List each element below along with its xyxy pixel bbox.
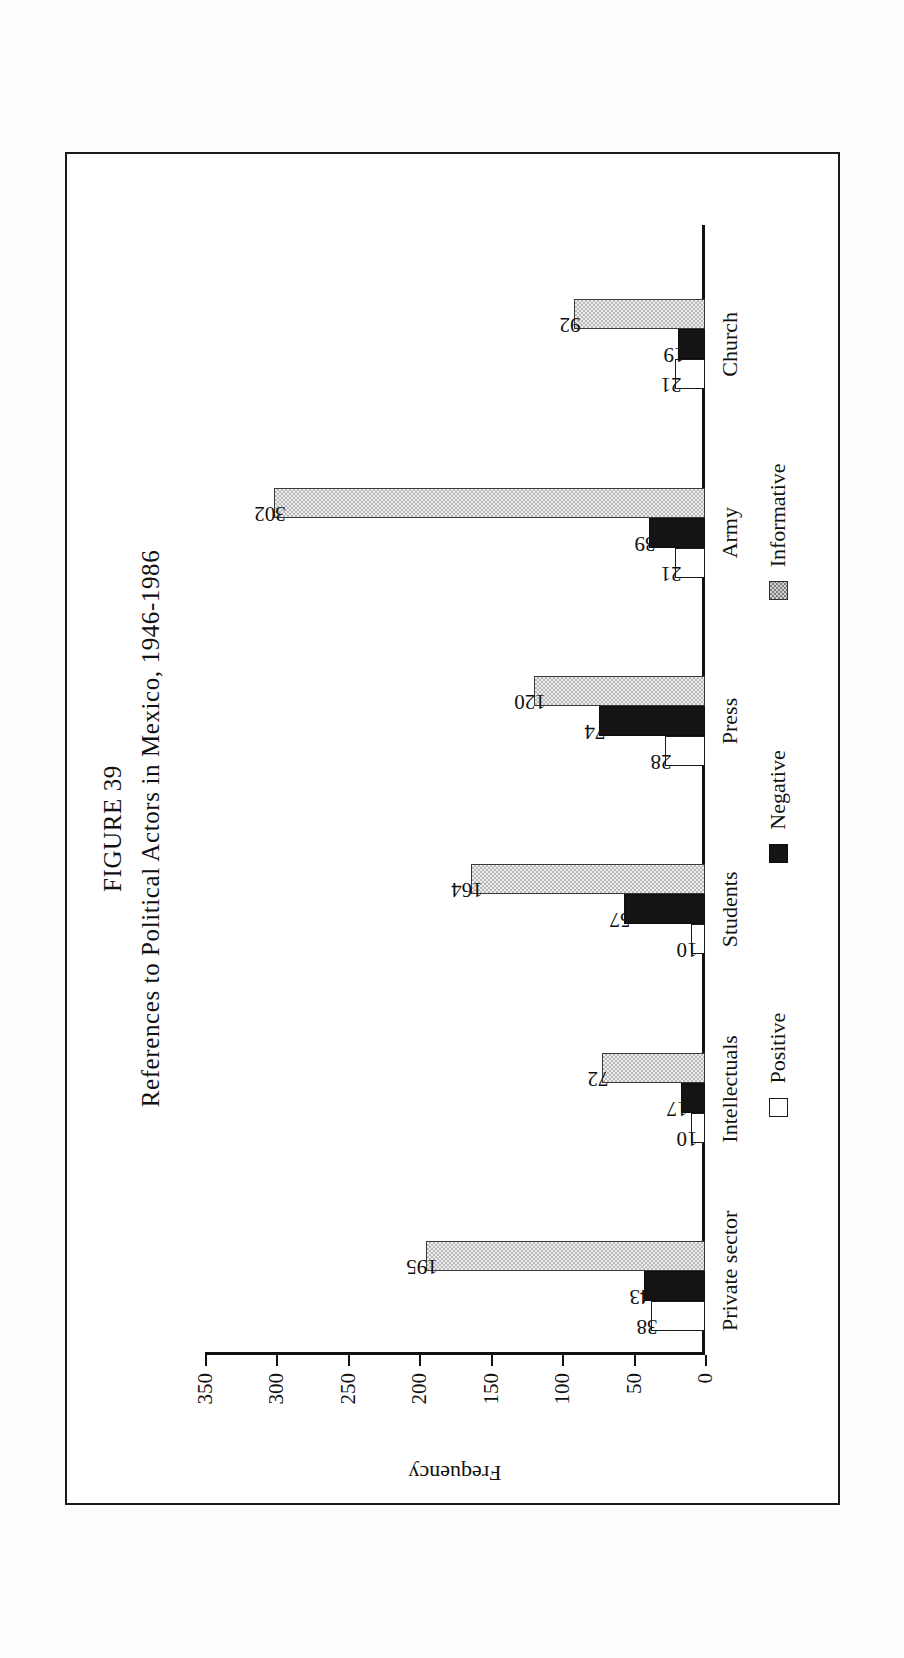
- y-tick-label-100: 100: [552, 1373, 573, 1405]
- bar-value-label: 38: [636, 1316, 657, 1337]
- y-tick-label-300: 300: [266, 1373, 287, 1405]
- bar-value-label: 21: [661, 374, 682, 395]
- y-tick-200: 200: [419, 1355, 421, 1366]
- bar-negative-church[interactable]: 19: [678, 329, 705, 359]
- y-tick-250: 250: [348, 1355, 350, 1366]
- bar-informative-church[interactable]: 92: [574, 299, 705, 329]
- bar-group-press: 2874120Press: [205, 676, 705, 766]
- y-tick-300: 300: [276, 1355, 278, 1366]
- bar-group-army: 2139302Army: [205, 488, 705, 578]
- legend-swatch-positive-icon: [769, 1098, 788, 1117]
- bar-value-label: 10: [676, 939, 697, 960]
- bar-value-label: 21: [661, 563, 682, 584]
- bar-group-church: 211992Church: [205, 299, 705, 389]
- y-tick-label-250: 250: [337, 1373, 358, 1405]
- bars: 1057164: [205, 864, 705, 954]
- category-label-church: Church: [717, 299, 743, 389]
- bar-value-label: 195: [407, 1256, 439, 1277]
- chart-title: References to Political Actors in Mexico…: [137, 152, 165, 1505]
- legend-label: Informative: [765, 463, 791, 567]
- figure-canvas: FIGURE 39 References to Political Actors…: [65, 152, 840, 1505]
- bar-negative-students[interactable]: 57: [624, 894, 705, 924]
- chart-legend: PositiveNegativeInformative: [765, 225, 791, 1355]
- bars: 2139302: [205, 488, 705, 578]
- bar-positive-army[interactable]: 21: [675, 548, 705, 578]
- bar-negative-press[interactable]: 74: [599, 706, 705, 736]
- bar-informative-private-sector[interactable]: 195: [426, 1241, 705, 1271]
- bar-value-label: 120: [514, 691, 546, 712]
- figure-number-label: FIGURE 39: [99, 152, 127, 1505]
- bar-negative-private-sector[interactable]: 43: [644, 1271, 705, 1301]
- category-label-intellectuals: Intellectuals: [717, 1053, 743, 1143]
- bar-positive-intellectuals[interactable]: 10: [691, 1113, 705, 1143]
- bar-value-label: 57: [609, 909, 630, 930]
- legend-item-positive[interactable]: Positive: [765, 1013, 791, 1117]
- legend-item-negative[interactable]: Negative: [765, 750, 791, 862]
- bar-value-label: 17: [666, 1098, 687, 1119]
- y-axis-title: Frequency: [409, 1460, 502, 1486]
- bar-value-label: 302: [254, 503, 286, 524]
- bars: 2874120: [205, 676, 705, 766]
- y-tick-150: 150: [491, 1355, 493, 1366]
- bar-value-label: 92: [559, 314, 580, 335]
- bar-value-label: 39: [635, 533, 656, 554]
- category-label-army: Army: [717, 488, 743, 578]
- bar-positive-students[interactable]: 10: [691, 924, 705, 954]
- bars: 101772: [205, 1053, 705, 1143]
- category-label-private-sector: Private sector: [717, 1241, 743, 1331]
- bars: 3843195: [205, 1241, 705, 1331]
- legend-swatch-negative-icon: [769, 844, 788, 863]
- bar-value-label: 43: [629, 1286, 650, 1307]
- y-tick-label-0: 0: [695, 1373, 716, 1384]
- y-tick-100: 100: [562, 1355, 564, 1366]
- x-axis-baseline: [702, 225, 705, 1355]
- bar-informative-intellectuals[interactable]: 72: [602, 1053, 705, 1083]
- legend-label: Positive: [765, 1013, 791, 1084]
- bar-negative-army[interactable]: 39: [649, 518, 705, 548]
- bar-value-label: 19: [663, 344, 684, 365]
- legend-swatch-informative-icon: [769, 581, 788, 600]
- bar-negative-intellectuals[interactable]: 17: [681, 1083, 705, 1113]
- y-axis-line: [205, 1352, 705, 1355]
- bar-informative-army[interactable]: 302: [274, 488, 705, 518]
- category-label-press: Press: [717, 676, 743, 766]
- y-tick-0: 0: [705, 1355, 707, 1366]
- bar-value-label: 28: [651, 751, 672, 772]
- y-tick-350: 350: [205, 1355, 207, 1366]
- bar-positive-press[interactable]: 28: [665, 736, 705, 766]
- y-tick-label-50: 50: [623, 1373, 644, 1394]
- bar-group-students: 1057164Students: [205, 864, 705, 954]
- rotated-figure-container: FIGURE 39 References to Political Actors…: [65, 152, 840, 1505]
- legend-item-informative[interactable]: Informative: [765, 463, 791, 600]
- bar-informative-students[interactable]: 164: [471, 864, 705, 894]
- y-tick-label-350: 350: [195, 1373, 216, 1405]
- bar-informative-press[interactable]: 120: [534, 676, 705, 706]
- category-label-students: Students: [717, 864, 743, 954]
- plot-area: 050100150200250300350 Frequency 3843195P…: [205, 225, 705, 1355]
- bar-value-label: 74: [585, 721, 606, 742]
- bars: 211992: [205, 299, 705, 389]
- legend-label: Negative: [765, 750, 791, 829]
- bar-value-label: 10: [676, 1128, 697, 1149]
- bar-value-label: 164: [451, 879, 483, 900]
- bar-positive-private-sector[interactable]: 38: [651, 1301, 705, 1331]
- bar-group-private-sector: 3843195Private sector: [205, 1241, 705, 1331]
- bar-group-intellectuals: 101772Intellectuals: [205, 1053, 705, 1143]
- y-tick-50: 50: [634, 1355, 636, 1366]
- y-tick-label-150: 150: [480, 1373, 501, 1405]
- y-tick-label-200: 200: [409, 1373, 430, 1405]
- bar-value-label: 72: [588, 1068, 609, 1089]
